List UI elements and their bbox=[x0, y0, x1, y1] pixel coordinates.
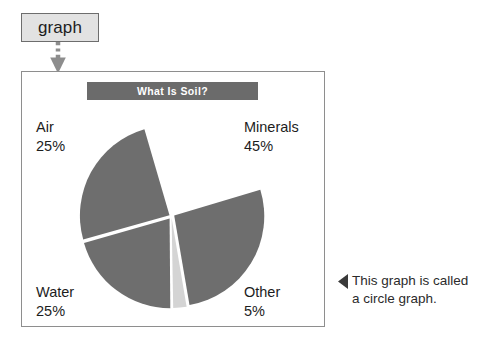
graph-callout-tag: graph bbox=[21, 13, 99, 42]
pie-label-water-name: Water bbox=[36, 284, 74, 300]
left-triangle-icon bbox=[338, 274, 348, 289]
pie-label-minerals-percent: 45% bbox=[244, 137, 299, 156]
chart-title-banner: What Is Soil? bbox=[87, 82, 258, 100]
pie-label-other-percent: 5% bbox=[244, 302, 280, 321]
side-annotation-line-1: This graph is called bbox=[352, 272, 468, 290]
pie-label-water-percent: 25% bbox=[36, 302, 74, 321]
side-annotation: This graph is called a circle graph. bbox=[338, 272, 468, 308]
pie-label-water: Water 25% bbox=[36, 283, 74, 322]
pie-label-minerals-name: Minerals bbox=[244, 119, 299, 135]
pie-label-air: Air 25% bbox=[36, 118, 65, 157]
pie-chart bbox=[72, 117, 272, 317]
side-annotation-text: This graph is called a circle graph. bbox=[352, 272, 468, 308]
pie-label-air-name: Air bbox=[36, 119, 54, 135]
graph-callout-label: graph bbox=[38, 19, 82, 36]
figure-box: What Is Soil? Air 25% Minerals 45% Water… bbox=[21, 71, 325, 327]
pie-label-air-percent: 25% bbox=[36, 137, 65, 156]
screenshot-root: graph What Is Soil? Air 25% Minerals 45% bbox=[0, 0, 499, 347]
pie-label-other: Other 5% bbox=[244, 283, 280, 322]
pie-label-minerals: Minerals 45% bbox=[244, 118, 299, 157]
pie-label-other-name: Other bbox=[244, 284, 280, 300]
chart-title: What Is Soil? bbox=[137, 85, 208, 97]
side-annotation-line-2: a circle graph. bbox=[352, 290, 468, 308]
dashed-down-arrow-icon bbox=[48, 42, 68, 74]
